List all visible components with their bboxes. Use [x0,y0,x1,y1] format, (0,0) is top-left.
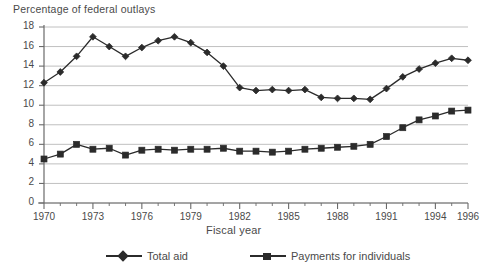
y-tick-label: 6 [12,137,34,148]
y-tick-label: 2 [12,176,34,187]
y-tick-label: 12 [12,79,34,90]
series-total-aid [41,33,472,102]
x-tick-label: 1996 [457,211,479,222]
y-tick-label: 4 [12,157,34,168]
line-chart: Percentage of federal outlays 0246810121… [0,0,484,276]
x-tick-label: 1988 [326,211,348,222]
gridlines [44,27,468,203]
x-tick-label: 1976 [131,211,153,222]
x-tick-label: 1994 [424,211,446,222]
legend-label-payments-for-individuals: Payments for individuals [291,250,410,262]
y-tick-label: 14 [12,59,34,70]
x-tick-label: 1979 [180,211,202,222]
legend-item-payments-for-individuals: Payments for individuals [250,250,410,262]
legend-label-total-aid: Total aid [147,250,188,262]
y-tick-label: 16 [12,40,34,51]
y-tick-label: 10 [12,98,34,109]
y-tick-label: 0 [12,196,34,207]
x-tick-label: 1970 [33,211,55,222]
x-tick-label: 1973 [82,211,104,222]
x-axis-title: Fiscal year [206,224,261,236]
axis-lines [38,25,468,203]
legend-item-total-aid: Total aid [106,250,188,262]
diamond-marker-icon [106,250,142,262]
y-axis-ticks [39,27,44,203]
square-marker-icon [250,250,286,262]
x-tick-label: 1982 [229,211,251,222]
y-tick-label: 18 [12,20,34,31]
x-axis-ticks [44,203,468,209]
x-tick-label: 1985 [277,211,299,222]
x-tick-label: 1991 [375,211,397,222]
chart-legend: Total aid Payments for individuals [0,250,484,272]
y-tick-label: 8 [12,118,34,129]
series-payments-for-individuals [41,107,471,162]
